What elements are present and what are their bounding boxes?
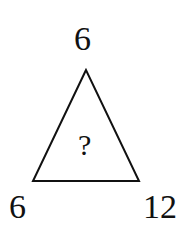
bottom-left-number: 6 <box>9 190 26 224</box>
triangle-shape <box>33 70 139 181</box>
top-number: 6 <box>74 22 91 56</box>
bottom-right-number: 12 <box>143 190 177 224</box>
center-question-mark: ? <box>78 130 91 160</box>
